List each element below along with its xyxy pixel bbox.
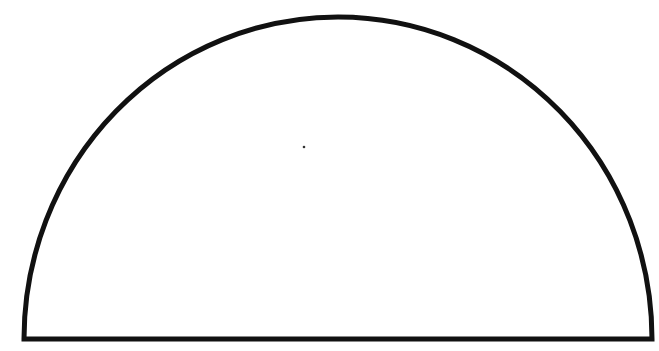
- semicircle-diagram: [0, 0, 659, 351]
- semicircle-outline: [24, 17, 652, 339]
- diagram-canvas: [0, 0, 659, 351]
- center-dot: [303, 146, 306, 149]
